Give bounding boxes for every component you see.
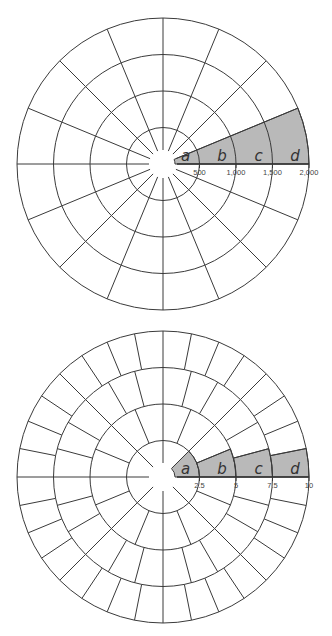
spoke (173, 174, 189, 190)
spoke (68, 514, 100, 532)
spoke (137, 487, 153, 503)
spoke (20, 498, 56, 505)
spoke (57, 496, 92, 505)
spoke (62, 122, 96, 136)
spoke (135, 198, 149, 232)
spoke (197, 178, 231, 192)
spoke (264, 519, 298, 533)
spoke (177, 410, 191, 444)
spoke (108, 540, 126, 572)
spoke (184, 334, 191, 370)
equal-angle-polar-grid: a b c d 500 1,000 1,500 2,000 (17, 18, 318, 310)
spoke (200, 382, 218, 414)
spoke (226, 422, 258, 440)
segment-label-b: b (217, 460, 227, 478)
scale-label-1: 2.5 (194, 481, 204, 490)
scale-label-4: 10 (305, 481, 313, 490)
spoke (96, 136, 130, 150)
spoke (137, 138, 153, 154)
spoke (28, 421, 62, 435)
spoke (42, 538, 72, 558)
spoke (254, 396, 284, 416)
spoke (184, 584, 191, 620)
spoke (240, 61, 266, 87)
segment-label-c: c (254, 147, 263, 165)
spoke (205, 29, 219, 63)
scale-label-3: 1,500 (263, 168, 282, 177)
grid-lines (17, 18, 309, 310)
spoke (254, 538, 284, 558)
scale-label-4: 2,000 (300, 168, 319, 177)
shaded-wedge (174, 108, 309, 164)
spoke (86, 216, 112, 242)
spoke (129, 150, 150, 159)
spoke (28, 519, 62, 533)
spoke (270, 498, 306, 505)
spoke (182, 371, 191, 406)
spoke (191, 231, 205, 265)
spoke (189, 425, 215, 451)
spoke (96, 178, 130, 192)
spoke (96, 491, 130, 505)
spoke (264, 421, 298, 435)
spoke (62, 192, 96, 206)
spoke (111, 503, 137, 529)
spoke (68, 422, 100, 440)
spoke (20, 449, 56, 456)
spoke (57, 449, 92, 458)
shaded-wedge (174, 108, 309, 164)
spoke (191, 63, 205, 97)
spoke (135, 584, 142, 620)
spoke (137, 451, 153, 467)
segment-label-b: b (217, 147, 227, 165)
spoke (168, 177, 177, 198)
spoke (135, 97, 149, 131)
segment-label-d: d (290, 147, 300, 165)
spoke (137, 174, 153, 190)
scale-labels: 2.5 5 7.5 10 (194, 481, 313, 490)
spoke (135, 334, 142, 370)
spoke (86, 400, 112, 426)
spoke (60, 61, 86, 87)
spoke (108, 382, 126, 414)
spoke (182, 548, 191, 583)
scale-label-3: 7.5 (267, 481, 277, 490)
spoke (205, 578, 219, 612)
spoke (240, 241, 266, 267)
spoke (177, 511, 191, 545)
segment-label-a: a (181, 460, 190, 478)
spoke (240, 554, 266, 580)
spoke (42, 396, 72, 416)
spoke (205, 342, 219, 376)
spoke (135, 371, 144, 406)
spoke (60, 241, 86, 267)
spoke (111, 190, 137, 216)
spoke (264, 206, 298, 220)
equal-area-polar-grid: a b c d 2.5 5 7.5 10 (17, 331, 313, 623)
spoke (149, 130, 158, 151)
spoke (107, 265, 121, 299)
spoke (82, 356, 102, 386)
spoke (177, 198, 191, 232)
scale-label-2: 5 (234, 481, 238, 490)
scale-labels: 500 1,000 1,500 2,000 (193, 168, 318, 177)
spoke (60, 554, 86, 580)
spoke (107, 29, 121, 63)
spoke (168, 130, 177, 151)
spoke (107, 342, 121, 376)
spoke (28, 108, 62, 122)
spoke (28, 206, 62, 220)
spoke (189, 112, 215, 138)
spoke (215, 400, 241, 426)
spoke (111, 425, 137, 451)
spoke (96, 449, 130, 463)
spoke (135, 410, 149, 444)
scale-label-2: 1,000 (227, 168, 246, 177)
spoke (60, 374, 86, 400)
spoke (135, 548, 144, 583)
spoke (121, 231, 135, 265)
spoke (197, 491, 231, 505)
segment-label-c: c (254, 460, 263, 478)
scale-label-1: 500 (193, 168, 206, 177)
segment-label-a: a (181, 147, 190, 165)
